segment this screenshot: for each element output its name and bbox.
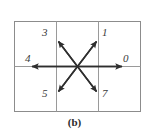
direction-label-3: 3 [42, 27, 48, 38]
figure-container: 3 1 4 0 5 7 (b) [0, 0, 149, 136]
direction-label-0: 0 [123, 53, 129, 64]
figure-caption: (b) [0, 116, 149, 128]
direction-label-5: 5 [42, 88, 48, 99]
direction-label-1: 1 [102, 27, 108, 38]
direction-label-4: 4 [25, 53, 31, 64]
direction-label-7: 7 [102, 88, 108, 99]
